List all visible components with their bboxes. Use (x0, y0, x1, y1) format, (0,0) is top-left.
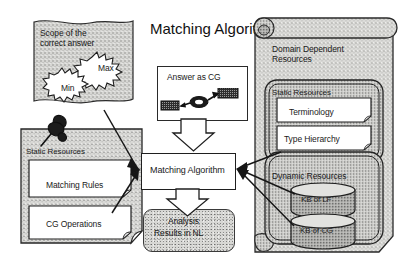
flag-label-line2: correct answer (40, 39, 94, 49)
analysis-results-line1: Analysis (168, 217, 199, 227)
dynamic-resources-title: Dynamic Resources (272, 172, 346, 182)
flag-burst-min-label: Min (61, 84, 74, 94)
block-arrow-cg-to-matching-algorithm (173, 119, 214, 151)
domain-static-resources-title: Static Resources (272, 89, 331, 98)
type-hierarchy-box-label: Type Hierarchy (284, 135, 340, 145)
terminology-box-label: Terminology (289, 108, 334, 118)
domain-dependent-resources-title-line2: Resources (272, 55, 312, 65)
cg-operations-box-label: CG Operations (46, 220, 101, 230)
kb-of-lf-label: KB of LF (301, 196, 331, 205)
scope-of-correct-answer-flag: Scope of the correct answer Min Max (28, 16, 138, 116)
conceptual-graph-illustration (160, 88, 244, 116)
static-resources-panel-title: Static Resources (26, 148, 85, 157)
matching-rules-box-label: Matching Rules (46, 181, 103, 191)
flag-burst-max-label: Max (98, 64, 114, 74)
pushpin-icon (38, 113, 78, 149)
matching-algorithm-label: Matching Algorithm (150, 165, 225, 175)
answer-as-cg-title: Answer as CG (167, 73, 221, 83)
diagram-canvas: Matching Algorithm (0, 0, 411, 273)
kb-of-cg-label: KB of CG (300, 227, 333, 236)
analysis-results-line2: Results in NL (154, 229, 203, 239)
